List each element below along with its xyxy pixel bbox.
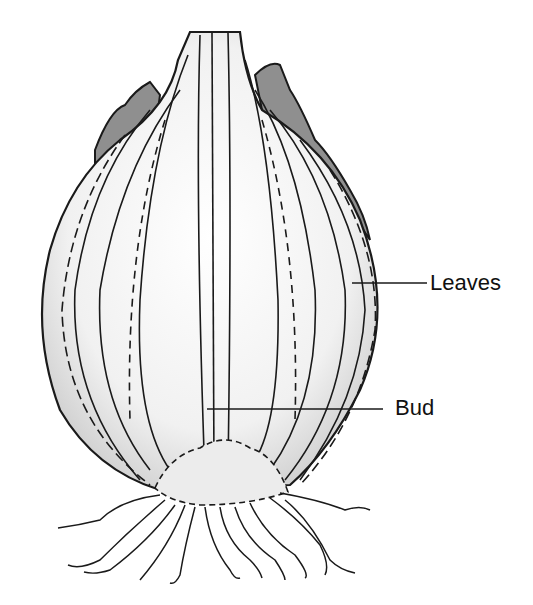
label-bud: Bud <box>395 397 434 419</box>
roots <box>58 493 370 583</box>
onion-bulb-illustration <box>0 0 533 605</box>
label-leaves: Leaves <box>430 272 501 294</box>
onion-diagram: Leaves Bud <box>0 0 533 605</box>
